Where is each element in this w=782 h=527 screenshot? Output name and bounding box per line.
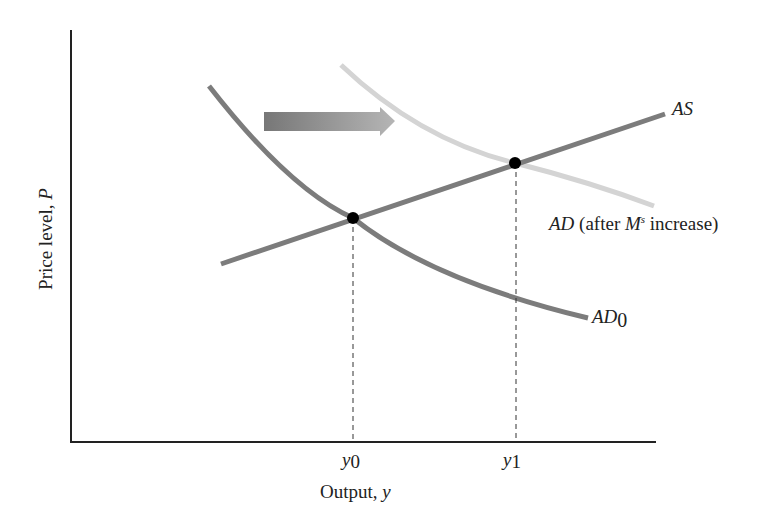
ad0-label-sub: 0	[617, 309, 627, 331]
ad-after-label: AD (after Ms increase)	[549, 213, 718, 235]
ad-after-label-mid: (after	[574, 213, 625, 234]
equilibrium-point-0	[347, 212, 359, 224]
y0-tick-sub: 0	[350, 451, 360, 472]
y1-tick-label: y1	[503, 449, 521, 471]
ad-after-label-main: AD	[549, 213, 574, 234]
shift-arrow-icon	[264, 107, 395, 136]
y-axis-label-main: Price level,	[35, 200, 56, 290]
as-label: AS	[672, 98, 693, 120]
ad0-label: AD0	[592, 305, 627, 328]
equilibrium-point-1	[509, 157, 521, 169]
ad0-label-main: AD	[592, 306, 617, 327]
x-axis-label-main: Output,	[320, 481, 382, 502]
chart-canvas	[0, 0, 782, 527]
y-axis-label-var: P	[35, 188, 56, 200]
ad-after-label-m: M	[625, 213, 641, 234]
x-axis-label-var: y	[382, 481, 390, 502]
ad-after-label-end: increase)	[645, 213, 718, 234]
x-axis-label: Output, y	[320, 481, 391, 503]
y1-tick-sub: 1	[511, 451, 521, 472]
y0-tick-label: y0	[342, 449, 360, 471]
y-axis-label: Price level, P	[35, 164, 57, 314]
